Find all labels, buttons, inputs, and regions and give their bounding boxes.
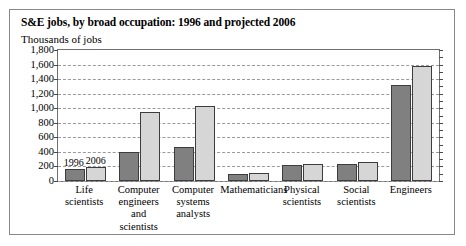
series-label-1996: 1996 xyxy=(64,158,84,168)
category-label-line: Mathematicians xyxy=(220,184,274,196)
y-axis-tick-mark xyxy=(54,79,58,80)
right-axis-tick-mark xyxy=(439,181,443,182)
bar-2006 xyxy=(195,106,215,181)
y-axis-tick-mark xyxy=(54,166,58,167)
bar-1996 xyxy=(337,164,357,181)
y-axis-tick-mark xyxy=(54,108,58,109)
y-axis-tick-label: 600 xyxy=(38,132,54,143)
category-label: Engineers xyxy=(384,184,438,196)
y-axis-tick-mark xyxy=(54,94,58,95)
bar-2006 xyxy=(86,167,106,181)
y-axis-tick-label: 1,400 xyxy=(30,74,54,85)
category-label-line: Social xyxy=(329,184,383,196)
category-label: Physicalscientists xyxy=(275,184,329,208)
right-axis-tick-mark xyxy=(439,101,443,102)
right-axis-tick-mark xyxy=(439,166,443,167)
category-label-line: scientists xyxy=(57,196,111,208)
category-label: Socialscientists xyxy=(329,184,383,208)
gridline xyxy=(58,152,439,153)
y-axis-tick-mark xyxy=(54,137,58,138)
category-label-line: Engineers xyxy=(384,184,438,196)
chart-title: S&E jobs, by broad occupation: 1996 and … xyxy=(21,16,295,28)
y-axis-tick-label: 1,800 xyxy=(30,45,54,56)
gridline xyxy=(58,79,439,80)
series-label-2006: 2006 xyxy=(86,156,106,166)
y-axis-tick-mark xyxy=(54,123,58,124)
bar-1996 xyxy=(119,152,139,181)
y-axis-tick-mark xyxy=(54,50,58,51)
bar-2006 xyxy=(303,164,323,181)
category-label-line: Physical xyxy=(275,184,329,196)
right-axis-tick-mark xyxy=(439,65,443,66)
y-axis-tick-label: 400 xyxy=(38,147,54,158)
gridline xyxy=(58,123,439,124)
right-axis-tick-mark xyxy=(439,159,443,160)
category-label: Computersystemsanalysts xyxy=(166,184,220,221)
right-axis-tick-mark xyxy=(439,72,443,73)
right-axis-tick-mark xyxy=(439,145,443,146)
y-axis-tick-label: 200 xyxy=(38,161,54,172)
bar-1996 xyxy=(282,165,302,181)
gridline xyxy=(58,181,439,182)
gridline xyxy=(58,166,439,167)
bar-1996 xyxy=(228,174,248,181)
gridline xyxy=(58,94,439,95)
chart-figure: S&E jobs, by broad occupation: 1996 and … xyxy=(9,9,455,235)
category-label-line: Computer xyxy=(166,184,220,196)
y-axis-tick-label: 1,000 xyxy=(30,103,54,114)
right-axis-tick-mark xyxy=(439,57,443,58)
category-label: Mathematicians xyxy=(220,184,274,196)
category-label-line: systems xyxy=(166,196,220,208)
y-axis-tick-label: 800 xyxy=(38,118,54,129)
category-label-line: scientists xyxy=(275,196,329,208)
right-axis-tick-mark xyxy=(439,94,443,95)
y-axis-tick-mark xyxy=(54,181,58,182)
gridline xyxy=(58,65,439,66)
plot-area: 02004006008001,0001,2001,4001,6001,800 1… xyxy=(57,49,440,182)
bar-2006 xyxy=(412,66,432,181)
category-label-line: engineers xyxy=(111,196,165,208)
right-axis-tick-mark xyxy=(439,86,443,87)
right-axis-tick-mark xyxy=(439,130,443,131)
bar-2006 xyxy=(358,162,378,181)
bar-1996 xyxy=(65,169,85,181)
right-axis-tick-mark xyxy=(439,174,443,175)
bar-2006 xyxy=(140,112,160,181)
gridline xyxy=(58,137,439,138)
right-axis-tick-mark xyxy=(439,79,443,80)
category-label-line: analysts xyxy=(166,208,220,220)
right-axis-tick-mark xyxy=(439,152,443,153)
y-axis-tick-label: 1,600 xyxy=(30,59,54,70)
right-axis-tick-mark xyxy=(439,108,443,109)
gridline xyxy=(58,108,439,109)
bar-1996 xyxy=(174,147,194,181)
right-axis-tick-mark xyxy=(439,123,443,124)
bar-1996 xyxy=(391,85,411,181)
bar-2006 xyxy=(249,173,269,181)
y-axis-tick-mark xyxy=(54,152,58,153)
category-label-line: and scientists xyxy=(111,208,165,232)
right-axis-tick-mark xyxy=(439,50,443,51)
category-label-line: Life xyxy=(57,184,111,196)
category-label: Lifescientists xyxy=(57,184,111,208)
category-label: Computerengineersand scientists xyxy=(111,184,165,233)
y-axis-tick-label: 1,200 xyxy=(30,88,54,99)
right-axis-tick-mark xyxy=(439,137,443,138)
y-axis-tick-mark xyxy=(54,65,58,66)
right-axis-tick-mark xyxy=(439,116,443,117)
category-label-line: Computer xyxy=(111,184,165,196)
category-label-line: scientists xyxy=(329,196,383,208)
